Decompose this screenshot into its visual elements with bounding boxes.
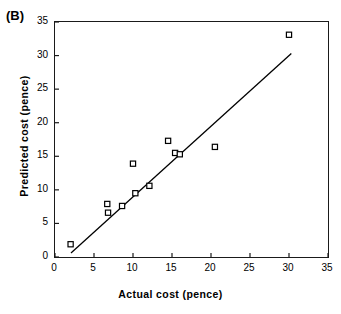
x-tick-label: 30 (275, 262, 301, 273)
data-point (130, 161, 135, 166)
data-point (286, 32, 291, 37)
y-tick-label: 20 (22, 116, 48, 127)
data-point (212, 144, 217, 149)
y-tick-label: 35 (22, 15, 48, 26)
x-tick-label: 20 (197, 262, 223, 273)
x-tick-label: 10 (119, 262, 145, 273)
y-tick-label: 0 (22, 250, 48, 261)
figure-panel-b: (B) Predicted cost (pence) Actual cost (… (0, 0, 341, 314)
x-tick-label: 0 (41, 262, 67, 273)
x-tick-label: 25 (236, 262, 262, 273)
y-axis-title: Predicted cost (pence) (18, 36, 30, 236)
plot-area (54, 21, 329, 258)
y-tick-label: 5 (22, 216, 48, 227)
y-tick-label: 25 (22, 82, 48, 93)
y-tick-label: 15 (22, 149, 48, 160)
data-point (147, 183, 152, 188)
data-point (105, 210, 110, 215)
data-point-markers (68, 32, 292, 247)
plot-canvas (55, 22, 328, 257)
data-point (105, 201, 110, 206)
y-tick-label: 30 (22, 49, 48, 60)
x-tick-label: 35 (314, 262, 340, 273)
data-point (133, 191, 138, 196)
y-tick-label: 10 (22, 183, 48, 194)
data-point (119, 203, 124, 208)
data-point (177, 152, 182, 157)
x-tick-label: 15 (158, 262, 184, 273)
x-axis-title: Actual cost (pence) (0, 288, 341, 300)
data-point (166, 138, 171, 143)
x-tick-label: 5 (80, 262, 106, 273)
data-point (68, 242, 73, 247)
